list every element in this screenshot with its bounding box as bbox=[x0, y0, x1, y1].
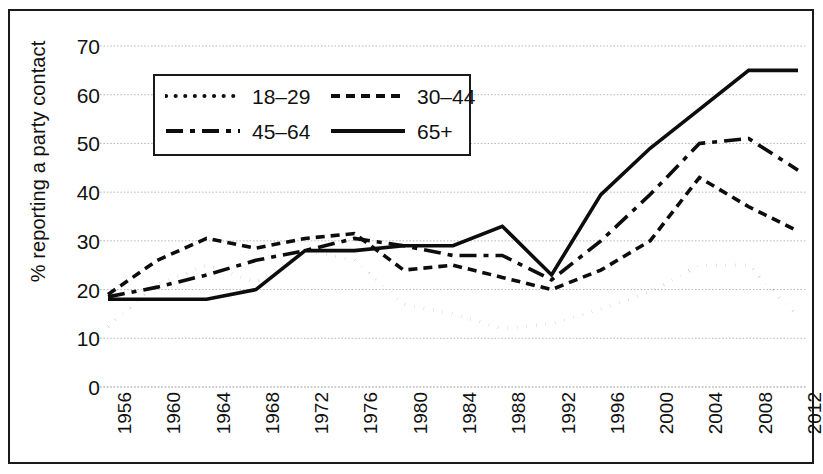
y-axis-tick-labels: 010203040506070 bbox=[48, 0, 100, 474]
x-tick-label: 1980 bbox=[411, 392, 430, 434]
x-tick-label: 1984 bbox=[460, 392, 479, 434]
x-tick-label: 1956 bbox=[115, 392, 134, 434]
series-line-18-29 bbox=[108, 251, 798, 329]
y-tick-label: 70 bbox=[77, 36, 100, 57]
x-tick-label: 2004 bbox=[706, 392, 725, 434]
series-line-45-64 bbox=[108, 139, 798, 297]
y-tick-label: 0 bbox=[88, 377, 100, 398]
legend-label: 45–64 bbox=[252, 121, 310, 142]
y-tick-label: 40 bbox=[77, 182, 100, 203]
x-tick-label: 1964 bbox=[214, 392, 233, 434]
legend-swatch-dash-dot-icon bbox=[165, 126, 241, 136]
x-tick-label: 2008 bbox=[756, 392, 775, 434]
x-tick-label: 1968 bbox=[263, 392, 282, 434]
y-axis-title: % reporting a party contact bbox=[27, 32, 50, 292]
y-tick-label: 20 bbox=[77, 279, 100, 300]
legend-item-18-29: 18–29 bbox=[165, 83, 310, 109]
y-tick-label: 30 bbox=[77, 230, 100, 251]
chart-legend: 18–29 30–44 45–64 65+ bbox=[153, 74, 471, 156]
x-tick-label: 1988 bbox=[509, 392, 528, 434]
y-tick-label: 10 bbox=[77, 328, 100, 349]
legend-swatch-dashed-icon bbox=[330, 91, 406, 101]
x-tick-label: 1972 bbox=[312, 392, 331, 434]
x-axis-tick-labels: 1956196019641968197219761980198419881992… bbox=[108, 392, 798, 472]
x-tick-label: 1960 bbox=[164, 392, 183, 434]
legend-label: 65+ bbox=[417, 121, 453, 142]
x-tick-label: 1976 bbox=[361, 392, 380, 434]
x-tick-label: 2012 bbox=[805, 392, 823, 434]
series-line-30-44 bbox=[108, 178, 798, 295]
x-tick-label: 1992 bbox=[559, 392, 578, 434]
x-tick-label: 1996 bbox=[608, 392, 627, 434]
legend-label: 30–44 bbox=[417, 86, 475, 107]
legend-swatch-dotted-icon bbox=[165, 91, 241, 101]
legend-swatch-solid-icon bbox=[330, 126, 406, 136]
legend-label: 18–29 bbox=[252, 86, 310, 107]
x-tick-label: 2000 bbox=[657, 392, 676, 434]
legend-item-45-64: 45–64 bbox=[165, 118, 310, 144]
legend-item-65plus: 65+ bbox=[330, 118, 453, 144]
y-tick-label: 50 bbox=[77, 133, 100, 154]
chart-figure: % reporting a party contact 010203040506… bbox=[0, 0, 823, 474]
legend-item-30-44: 30–44 bbox=[330, 83, 475, 109]
y-tick-label: 60 bbox=[77, 84, 100, 105]
